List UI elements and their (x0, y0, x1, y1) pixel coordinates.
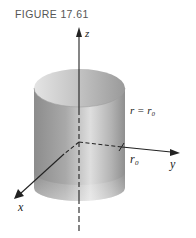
z-axis-label: z (84, 27, 90, 39)
radius-label: r₀ (130, 152, 139, 166)
equation-label: r = r₀ (130, 104, 155, 116)
cylinder-diagram: z y x r = r₀ r₀ (0, 0, 196, 238)
y-axis-label: y (169, 157, 176, 171)
x-axis-label: x (17, 200, 24, 214)
